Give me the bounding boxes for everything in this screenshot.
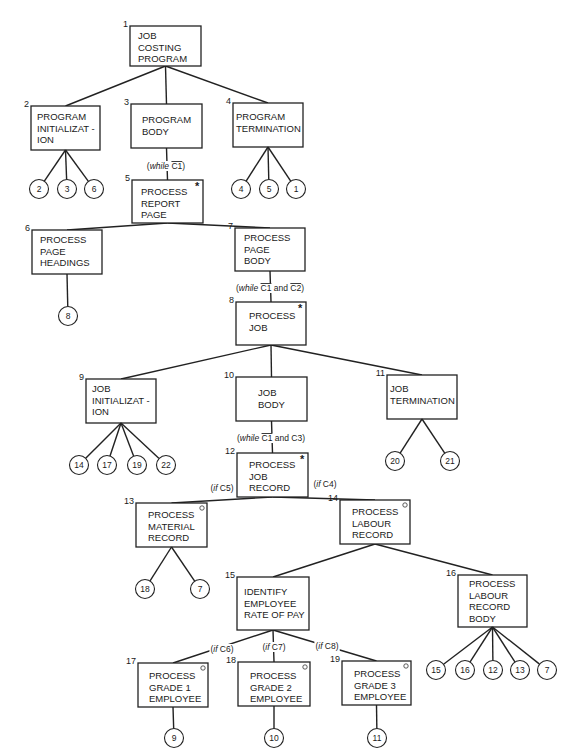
- node-label-line: TERMINATION: [390, 395, 455, 406]
- ref-connector: [121, 423, 159, 459]
- node-number: 7: [228, 221, 233, 231]
- operation-ref-circle: 10: [265, 729, 284, 748]
- condition-part: C7: [270, 642, 284, 652]
- condition-part: C1: [261, 283, 272, 293]
- node-label-line: BODY: [244, 255, 272, 266]
- node-label-line: PROGRAM: [142, 114, 191, 125]
- node-label-line: PROCESS: [40, 234, 86, 245]
- selection-marker: [403, 503, 407, 507]
- ref-number: 18: [140, 584, 150, 594]
- node-7: 7PROCESSPAGEBODY: [228, 221, 305, 271]
- ref-number: 15: [431, 665, 441, 675]
- nodes-layer: 1JOBCOSTINGPROGRAM2PROGRAMINITIALIZAT -I…: [24, 19, 527, 707]
- structure-diagram: (while C1)(while C1 and C2)(while C1 and…: [0, 0, 576, 749]
- node-label-line: JOB: [249, 322, 267, 333]
- node-label-line: PROCESS: [148, 509, 194, 520]
- ref-number: 3: [65, 184, 70, 194]
- condition-part: ): [334, 479, 337, 489]
- edge-8-10: [271, 345, 272, 377]
- selection-marker: [303, 665, 307, 669]
- operation-ref-circle: 19: [128, 456, 147, 475]
- selection-marker: [201, 666, 205, 670]
- ref-number: 9: [172, 733, 177, 743]
- node-label-line: EMPLOYEE: [354, 691, 406, 702]
- node-label-line: PROCESS: [250, 670, 296, 681]
- node-number: 2: [24, 99, 29, 109]
- condition-part: C6: [218, 644, 232, 654]
- node-label-line: RECORD: [148, 532, 189, 543]
- condition-label: (if C4): [313, 479, 336, 489]
- node-10: 10JOBBODY: [224, 370, 307, 421]
- node-number: 14: [328, 493, 338, 503]
- ref-connector: [268, 147, 291, 181]
- node-label-line: PROCESS: [469, 578, 515, 589]
- node-label-line: RECORD: [469, 601, 510, 612]
- node-16: 16PROCESSLABOURRECORDBODY: [446, 568, 527, 627]
- ref-number: 7: [545, 665, 550, 675]
- node-number: 13: [124, 496, 134, 506]
- condition-part: ): [301, 283, 304, 293]
- ref-connector: [172, 547, 195, 581]
- operation-ref-circle: 12: [484, 661, 503, 680]
- node-number: 10: [224, 370, 234, 380]
- node-number: 16: [446, 568, 456, 578]
- operation-ref-circle: 1: [287, 180, 306, 199]
- node-label-line: JOB: [258, 387, 276, 398]
- operation-ref-circle: 2: [30, 180, 49, 199]
- ref-connector: [422, 419, 445, 453]
- operation-ref-circle: 17: [98, 456, 117, 475]
- ref-connector: [246, 147, 268, 181]
- node-label-line: GRADE 1: [149, 682, 191, 693]
- ref-number: 17: [102, 460, 112, 470]
- ref-connector: [66, 150, 89, 181]
- edge-1-3: [166, 66, 167, 104]
- condition-label: (if C6): [210, 644, 233, 654]
- node-label-line: COSTING: [138, 42, 181, 53]
- node-box: [236, 302, 306, 345]
- condition-part: C5: [218, 483, 232, 493]
- node-label-line: INITIALIZAT -: [92, 395, 150, 406]
- ref-number: 22: [161, 460, 171, 470]
- operation-ref-circle: 20: [386, 452, 405, 471]
- node-6: 6PROCESSPAGEHEADINGS: [25, 223, 102, 274]
- node-label-line: EMPLOYEE: [244, 598, 296, 609]
- edge-5-7: [168, 223, 271, 228]
- operation-ref-circle: 14: [70, 456, 89, 475]
- ref-number: 4: [239, 184, 244, 194]
- ref-connector: [66, 150, 67, 180]
- edge-14-16: [375, 544, 493, 575]
- condition-part: C4: [321, 479, 335, 489]
- node-label-line: PROCESS: [141, 186, 187, 197]
- node-number: 1: [123, 19, 128, 29]
- node-number: 11: [376, 368, 385, 378]
- edge-1-2: [66, 66, 166, 106]
- ref-number: 2: [37, 184, 42, 194]
- node-label-line: INITIALIZAT -: [37, 123, 95, 134]
- node-label-line: PROGRAM: [37, 111, 86, 122]
- node-label-line: LABOUR: [469, 590, 508, 601]
- operation-ref-circle: 7: [538, 661, 557, 680]
- node-18: 18PROCESSGRADE 2EMPLOYEE: [226, 655, 310, 706]
- ref-number: 7: [198, 584, 203, 594]
- node-4: 4PROGRAMTERMINATION: [226, 96, 303, 147]
- operation-ref-circle: 18: [136, 580, 155, 599]
- condition-label: (if C8): [315, 641, 338, 651]
- condition-part: while: [239, 283, 259, 293]
- node-label-line: PROCESS: [149, 670, 195, 681]
- node-label-line: BODY: [469, 613, 497, 624]
- operation-ref-circle: 5: [260, 180, 279, 199]
- condition-part: and C3: [272, 433, 302, 443]
- ref-number: 10: [269, 733, 279, 743]
- ref-connector: [493, 627, 540, 664]
- node-label-line: GRADE 2: [250, 682, 292, 693]
- node-3: 3PROGRAMBODY: [124, 97, 202, 148]
- operation-ref-circle: 11: [368, 729, 387, 748]
- node-15: 15IDENTIFYEMPLOYEERATE OF PAY: [225, 570, 309, 630]
- operation-ref-circle: 15: [427, 661, 446, 680]
- node-label-line: PROGRAM: [236, 111, 285, 122]
- node-label-line: PROCESS: [249, 459, 295, 470]
- node-number: 5: [125, 173, 130, 183]
- edge-8-9: [121, 345, 271, 379]
- node-number: 12: [225, 446, 235, 456]
- node-number: 18: [226, 655, 236, 665]
